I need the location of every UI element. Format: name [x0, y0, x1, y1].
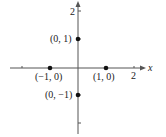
y-tick-label-2: 2 — [70, 6, 75, 17]
label-point-neg1-0: (−1, 0) — [35, 71, 62, 83]
point-neg1-0 — [48, 66, 53, 71]
label-point-1-0: (1, 0) — [93, 71, 115, 83]
point-0-1 — [76, 37, 81, 42]
y-axis-arrow-icon — [76, 1, 81, 7]
point-1-0 — [104, 66, 109, 71]
label-point-0-1: (0, 1) — [50, 33, 72, 45]
x-axis-arrow-icon — [140, 66, 146, 71]
x-tick-label-2: 2 — [131, 70, 136, 81]
label-point-0-neg1: (0, −1) — [45, 89, 72, 101]
coordinate-plane: x 2 2 (0, 1) (−1, 0) (1, 0) (0, −1) — [0, 0, 166, 137]
point-0-neg1 — [76, 93, 81, 98]
x-axis-label: x — [147, 62, 153, 73]
